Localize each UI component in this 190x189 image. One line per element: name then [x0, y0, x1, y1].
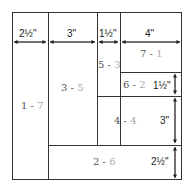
dim-width-3: 3": [67, 28, 76, 39]
piece-label-1-7: 1 - 7: [21, 100, 44, 111]
piece-label-4-4: 4 - 4: [114, 115, 137, 126]
piece-label-7-1: 7 - 1: [140, 48, 163, 59]
dim-height-1-1-2: 1½": [153, 80, 170, 91]
piece-label-6-2: 6 - 2: [123, 79, 146, 90]
dim-width-4: 4": [145, 28, 154, 39]
piece-label-3-5: 3 - 5: [61, 82, 84, 93]
piece-label-2-6: 2 - 6: [93, 156, 116, 167]
dim-width-1-1-2: 1½": [99, 28, 116, 39]
dim-height-3: 3": [160, 115, 169, 126]
piece-label-5-3: 5 - 3: [98, 59, 121, 70]
dim-width-2-1-2: 2½": [19, 28, 36, 39]
dim-height-2-1-2: 2½": [151, 156, 168, 167]
